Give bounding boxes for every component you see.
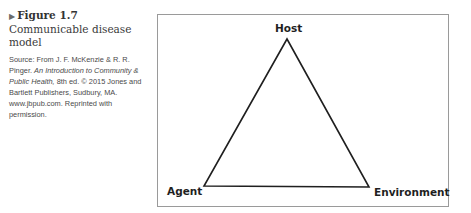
triangle-shape xyxy=(204,39,369,187)
vertex-label-agent: Agent xyxy=(167,185,202,197)
vertex-label-environment: Environment xyxy=(374,186,450,198)
triangle-diagram xyxy=(0,0,471,213)
vertex-label-host: Host xyxy=(275,22,302,34)
